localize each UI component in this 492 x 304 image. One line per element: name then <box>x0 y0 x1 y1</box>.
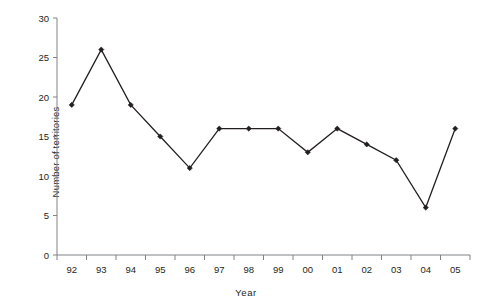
x-tick-label: 05 <box>450 264 461 275</box>
x-tick-label: 94 <box>125 264 136 275</box>
x-tick-label: 92 <box>66 264 77 275</box>
x-tick-label: 97 <box>214 264 225 275</box>
x-tick-label: 99 <box>273 264 284 275</box>
data-point-marker <box>246 126 251 131</box>
x-tick-label: 00 <box>302 264 313 275</box>
x-tick-label: 03 <box>391 264 402 275</box>
data-point-marker <box>99 47 104 52</box>
series-line <box>72 50 456 208</box>
data-point-marker <box>453 126 458 131</box>
x-tick-label: 01 <box>332 264 343 275</box>
plot-area: 051015202530 929394959697989900010203040… <box>0 0 492 304</box>
y-tick-label: 5 <box>44 210 49 221</box>
y-axis: 051015202530 <box>38 13 57 261</box>
x-tick-label: 04 <box>420 264 431 275</box>
y-tick-label: 15 <box>38 131 49 142</box>
x-axis: 9293949596979899000102030405 <box>57 255 470 275</box>
x-tick-label: 96 <box>184 264 195 275</box>
y-tick-label: 0 <box>44 250 49 261</box>
x-tick-label: 02 <box>361 264 372 275</box>
x-tick-label: 93 <box>96 264 107 275</box>
line-chart: Number of territories Year 051015202530 … <box>0 0 492 304</box>
x-tick-label: 98 <box>243 264 254 275</box>
y-tick-label: 10 <box>38 171 49 182</box>
x-tick-label: 95 <box>155 264 166 275</box>
data-point-marker <box>364 142 369 147</box>
y-tick-label: 30 <box>38 13 49 24</box>
data-point-marker <box>69 102 74 107</box>
y-tick-label: 25 <box>38 52 49 63</box>
y-tick-label: 20 <box>38 92 49 103</box>
data-series <box>69 47 458 210</box>
